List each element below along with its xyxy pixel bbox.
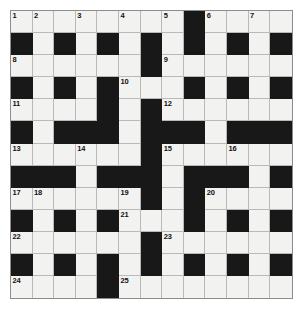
grid-letter-cell[interactable]	[205, 99, 227, 121]
grid-letter-cell[interactable]	[76, 188, 98, 210]
grid-letter-cell[interactable]	[184, 276, 206, 298]
grid-letter-cell[interactable]	[141, 77, 163, 99]
grid-letter-cell[interactable]	[249, 210, 271, 232]
grid-letter-cell[interactable]	[119, 121, 141, 143]
grid-letter-cell[interactable]	[249, 276, 271, 298]
grid-letter-cell[interactable]	[270, 99, 292, 121]
grid-letter-cell[interactable]	[205, 210, 227, 232]
grid-letter-cell[interactable]	[141, 11, 163, 33]
grid-letter-cell[interactable]: 3	[76, 11, 98, 33]
grid-letter-cell[interactable]	[54, 276, 76, 298]
grid-letter-cell[interactable]	[119, 232, 141, 254]
grid-letter-cell[interactable]	[249, 99, 271, 121]
grid-letter-cell[interactable]	[141, 276, 163, 298]
grid-letter-cell[interactable]: 20	[205, 188, 227, 210]
grid-letter-cell[interactable]	[249, 188, 271, 210]
grid-letter-cell[interactable]: 18	[33, 188, 55, 210]
grid-letter-cell[interactable]	[270, 232, 292, 254]
grid-letter-cell[interactable]	[249, 55, 271, 77]
grid-letter-cell[interactable]	[249, 77, 271, 99]
grid-letter-cell[interactable]: 15	[162, 144, 184, 166]
grid-letter-cell[interactable]: 13	[11, 144, 33, 166]
grid-letter-cell[interactable]	[162, 254, 184, 276]
grid-letter-cell[interactable]	[205, 33, 227, 55]
grid-letter-cell[interactable]	[184, 55, 206, 77]
grid-letter-cell[interactable]	[97, 55, 119, 77]
grid-letter-cell[interactable]	[76, 254, 98, 276]
grid-letter-cell[interactable]	[227, 188, 249, 210]
grid-letter-cell[interactable]	[184, 99, 206, 121]
grid-letter-cell[interactable]	[76, 99, 98, 121]
grid-letter-cell[interactable]	[162, 33, 184, 55]
grid-letter-cell[interactable]	[162, 166, 184, 188]
grid-letter-cell[interactable]	[119, 33, 141, 55]
grid-letter-cell[interactable]	[205, 55, 227, 77]
grid-letter-cell[interactable]	[205, 121, 227, 143]
grid-letter-cell[interactable]: 7	[249, 11, 271, 33]
grid-letter-cell[interactable]	[33, 77, 55, 99]
grid-letter-cell[interactable]	[76, 33, 98, 55]
grid-letter-cell[interactable]	[270, 55, 292, 77]
grid-letter-cell[interactable]	[76, 210, 98, 232]
grid-letter-cell[interactable]	[119, 144, 141, 166]
grid-letter-cell[interactable]	[184, 232, 206, 254]
grid-letter-cell[interactable]	[76, 77, 98, 99]
grid-letter-cell[interactable]	[162, 77, 184, 99]
grid-letter-cell[interactable]	[33, 33, 55, 55]
grid-letter-cell[interactable]	[76, 55, 98, 77]
grid-letter-cell[interactable]	[33, 210, 55, 232]
grid-letter-cell[interactable]: 12	[162, 99, 184, 121]
grid-letter-cell[interactable]	[54, 232, 76, 254]
grid-letter-cell[interactable]	[227, 11, 249, 33]
grid-letter-cell[interactable]: 9	[162, 55, 184, 77]
grid-letter-cell[interactable]: 6	[205, 11, 227, 33]
grid-letter-cell[interactable]	[33, 254, 55, 276]
grid-letter-cell[interactable]	[97, 232, 119, 254]
grid-letter-cell[interactable]	[249, 33, 271, 55]
grid-letter-cell[interactable]	[141, 210, 163, 232]
grid-letter-cell[interactable]: 23	[162, 232, 184, 254]
grid-letter-cell[interactable]	[76, 232, 98, 254]
grid-letter-cell[interactable]	[162, 276, 184, 298]
grid-letter-cell[interactable]	[227, 99, 249, 121]
grid-letter-cell[interactable]: 19	[119, 188, 141, 210]
grid-letter-cell[interactable]	[119, 55, 141, 77]
grid-letter-cell[interactable]	[119, 254, 141, 276]
grid-letter-cell[interactable]: 4	[119, 11, 141, 33]
grid-letter-cell[interactable]	[97, 188, 119, 210]
grid-letter-cell[interactable]	[227, 232, 249, 254]
grid-letter-cell[interactable]	[54, 144, 76, 166]
grid-letter-cell[interactable]	[270, 188, 292, 210]
grid-letter-cell[interactable]	[205, 276, 227, 298]
grid-letter-cell[interactable]	[33, 121, 55, 143]
grid-letter-cell[interactable]: 16	[227, 144, 249, 166]
grid-letter-cell[interactable]: 21	[119, 210, 141, 232]
grid-letter-cell[interactable]: 10	[119, 77, 141, 99]
grid-letter-cell[interactable]	[227, 276, 249, 298]
grid-letter-cell[interactable]	[249, 254, 271, 276]
grid-letter-cell[interactable]	[184, 144, 206, 166]
grid-letter-cell[interactable]: 2	[33, 11, 55, 33]
crossword-grid[interactable]: 1234567891011121314151617181920212223242…	[10, 10, 293, 299]
grid-letter-cell[interactable]: 17	[11, 188, 33, 210]
grid-letter-cell[interactable]: 8	[11, 55, 33, 77]
grid-letter-cell[interactable]: 1	[11, 11, 33, 33]
grid-letter-cell[interactable]: 14	[76, 144, 98, 166]
grid-letter-cell[interactable]: 11	[11, 99, 33, 121]
grid-letter-cell[interactable]: 24	[11, 276, 33, 298]
grid-letter-cell[interactable]	[249, 232, 271, 254]
grid-letter-cell[interactable]	[270, 276, 292, 298]
grid-letter-cell[interactable]	[54, 11, 76, 33]
grid-letter-cell[interactable]	[33, 144, 55, 166]
grid-letter-cell[interactable]: 22	[11, 232, 33, 254]
grid-letter-cell[interactable]	[270, 11, 292, 33]
grid-letter-cell[interactable]	[33, 55, 55, 77]
grid-letter-cell[interactable]	[33, 276, 55, 298]
grid-letter-cell[interactable]	[54, 55, 76, 77]
grid-letter-cell[interactable]	[205, 77, 227, 99]
grid-letter-cell[interactable]	[97, 11, 119, 33]
grid-letter-cell[interactable]: 5	[162, 11, 184, 33]
grid-letter-cell[interactable]	[270, 144, 292, 166]
grid-letter-cell[interactable]	[97, 144, 119, 166]
grid-letter-cell[interactable]	[119, 99, 141, 121]
